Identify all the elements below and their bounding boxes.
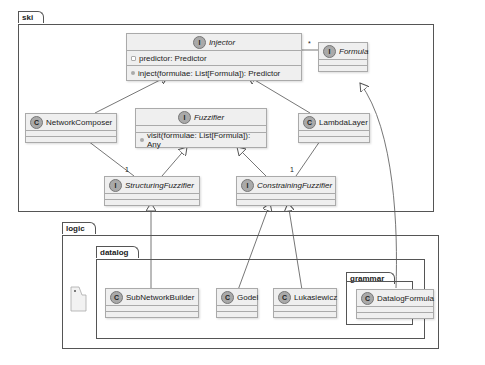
multiplicity-label: 1 xyxy=(290,166,294,173)
class-name: Formula xyxy=(339,47,368,56)
class-formula[interactable]: I Formula xyxy=(318,42,368,72)
class-name: SubNetworkBuilder xyxy=(126,293,194,302)
class-name: NetworkComposer xyxy=(46,118,112,127)
method-visibility-icon xyxy=(140,138,144,142)
class-name: LambdaLayer xyxy=(319,118,368,127)
method-visit: visit(formulae: List[Formula]): Any xyxy=(147,131,262,149)
class-name: Injector xyxy=(209,38,235,47)
method-visibility-icon xyxy=(131,71,135,75)
method-inject: inject(formulae: List[Formula]): Predict… xyxy=(138,69,280,78)
class-badge-icon: C xyxy=(110,291,123,304)
class-datalog-formula[interactable]: C DatalogFormula xyxy=(356,289,434,319)
class-structuring-fuzzifier[interactable]: I StructuringFuzzifier xyxy=(104,176,200,206)
class-badge-icon: C xyxy=(361,292,374,305)
class-lukasiewicz[interactable]: C Lukasiewicz xyxy=(273,288,337,318)
note-icon xyxy=(70,286,88,312)
class-name: Godel xyxy=(237,293,258,302)
class-lambda-layer[interactable]: C LambdaLayer xyxy=(298,113,370,143)
package-tab-ski: ski xyxy=(18,11,44,23)
interface-badge-icon: I xyxy=(193,36,206,49)
interface-badge-icon: I xyxy=(178,111,191,124)
class-name: DatalogFormula xyxy=(377,294,434,303)
field-predictor: predictor: Predictor xyxy=(139,54,207,63)
package-tab-datalog: datalog xyxy=(96,246,139,258)
interface-badge-icon: I xyxy=(323,45,336,58)
class-badge-icon: C xyxy=(221,291,234,304)
multiplicity-label: 1 xyxy=(125,166,129,173)
class-name: Fuzzifier xyxy=(194,113,224,122)
field-visibility-icon xyxy=(131,56,136,61)
multiplicity-label: * xyxy=(308,40,311,47)
class-name: StructuringFuzzifier xyxy=(125,181,194,190)
class-sub-network-builder[interactable]: C SubNetworkBuilder xyxy=(105,288,199,318)
class-godel[interactable]: C Godel xyxy=(216,288,258,318)
class-badge-icon: C xyxy=(30,116,43,129)
class-network-composer[interactable]: C NetworkComposer xyxy=(25,113,117,143)
class-injector[interactable]: I Injector predictor: Predictor inject(f… xyxy=(126,33,302,81)
class-name: Lukasiewicz xyxy=(294,293,337,302)
class-fuzzifier[interactable]: I Fuzzifier visit(formulae: List[Formula… xyxy=(135,108,267,148)
interface-badge-icon: I xyxy=(109,179,122,192)
class-badge-icon: C xyxy=(303,116,316,129)
class-name: ConstrainingFuzzifier xyxy=(257,181,332,190)
class-badge-icon: C xyxy=(278,291,291,304)
package-tab-logic: logic xyxy=(62,222,96,234)
interface-badge-icon: I xyxy=(241,179,254,192)
class-constraining-fuzzifier[interactable]: I ConstrainingFuzzifier xyxy=(236,176,336,206)
